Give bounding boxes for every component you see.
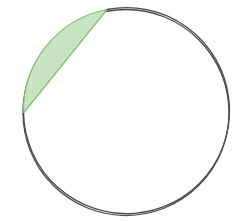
diagram-canvas: Circle with shaded circular segment: [0, 0, 237, 221]
circle-segment-diagram: [0, 0, 237, 221]
